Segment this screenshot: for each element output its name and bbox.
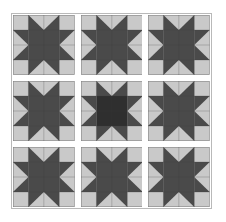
sawtooth-star-middle-left [13,81,75,141]
quilt-image-canvas [0,0,226,222]
quilt-border-frame [11,13,212,209]
sawtooth-star-top-left [13,15,75,75]
sawtooth-star-top-right [148,15,210,75]
sawtooth-star-middle-center [81,81,143,141]
sawtooth-star-middle-right [148,81,210,141]
quilt-block-grid [12,14,211,208]
sawtooth-star-bottom-left [13,147,75,207]
sawtooth-star-top-center [81,15,143,75]
sawtooth-star-bottom-center [81,147,143,207]
sawtooth-star-bottom-right [148,147,210,207]
